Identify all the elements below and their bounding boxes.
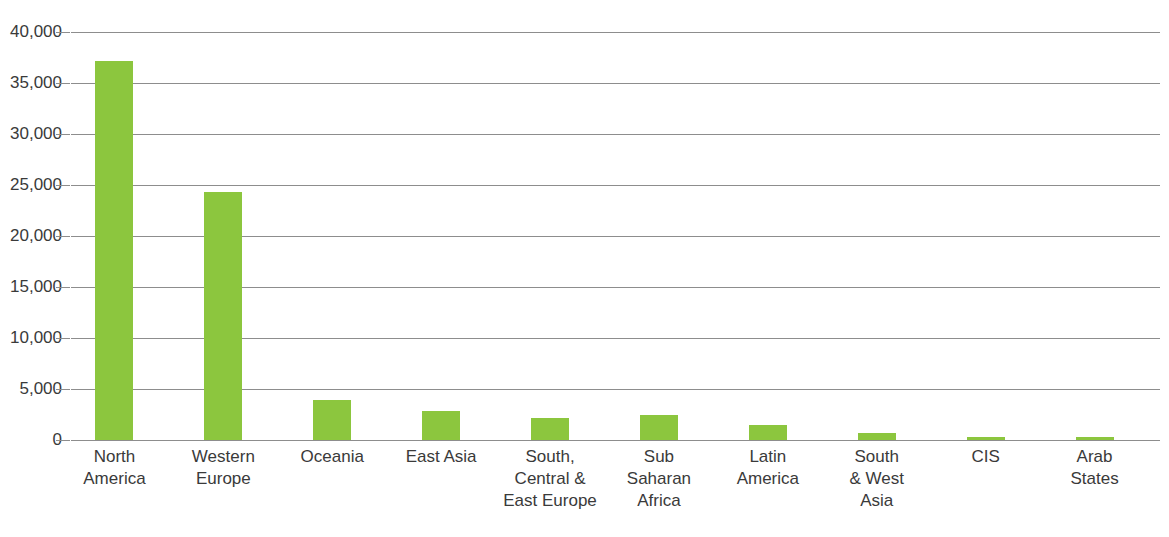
y-axis-tick (56, 83, 70, 84)
x-axis-tick-label-line: Western (171, 446, 275, 468)
x-axis-tick-label: Oceania (280, 446, 384, 468)
y-axis-tick-label: 30,000 (0, 125, 62, 142)
x-axis-tick-label: LatinAmerica (716, 446, 820, 490)
y-axis-tick-label: 25,000 (0, 176, 62, 193)
y-axis-tick (56, 134, 70, 135)
x-axis-tick-label-line: Latin (716, 446, 820, 468)
bar[interactable] (967, 437, 1005, 440)
bar[interactable] (422, 411, 460, 440)
y-axis-tick (56, 338, 70, 339)
y-axis-tick (56, 287, 70, 288)
x-axis-tick-label-line: States (1043, 468, 1147, 490)
y-axis-tick-label: 15,000 (0, 278, 62, 295)
y-axis-tick-label: 0 (0, 431, 62, 448)
x-axis-tick-label-line: South, (498, 446, 602, 468)
y-axis-tick (56, 32, 70, 33)
bar[interactable] (749, 425, 787, 440)
y-axis-tick-label: 20,000 (0, 227, 62, 244)
bar[interactable] (640, 415, 678, 441)
x-axis-tick-label-line: America (716, 468, 820, 490)
x-axis-tick-label-line: South (825, 446, 929, 468)
x-axis-tick-label-line: Europe (171, 468, 275, 490)
x-axis-tick-label: CIS (934, 446, 1038, 468)
x-axis-tick-label-line: Arab (1043, 446, 1147, 468)
x-axis-tick-label-line: Sub (607, 446, 711, 468)
x-axis-tick-label-line: CIS (934, 446, 1038, 468)
gridline (71, 32, 1160, 33)
bar[interactable] (313, 400, 351, 440)
x-axis-tick-label: SubSaharanAfrica (607, 446, 711, 512)
chart-title (120, 0, 820, 2)
x-axis-tick-label-line: Saharan (607, 468, 711, 490)
y-axis-tick (56, 440, 70, 441)
x-axis-tick-label: NorthAmerica (62, 446, 166, 490)
bar[interactable] (204, 192, 242, 440)
x-axis-tick-label-line: East Asia (389, 446, 493, 468)
gridline (71, 134, 1160, 135)
x-axis-tick-label: South& WestAsia (825, 446, 929, 512)
x-axis-tick-label: ArabStates (1043, 446, 1147, 490)
x-axis-tick-label-line: Africa (607, 490, 711, 512)
gridline (71, 440, 1160, 441)
x-axis-tick-label: WesternEurope (171, 446, 275, 490)
x-axis-tick-label-line: Asia (825, 490, 929, 512)
y-axis-tick-label: 10,000 (0, 329, 62, 346)
x-axis-tick-label-line: & West (825, 468, 929, 490)
y-axis-tick-labels: 40,00035,00030,00025,00020,00015,00010,0… (0, 32, 62, 440)
x-axis-tick-label-line: Central & (498, 468, 602, 490)
bar[interactable] (95, 61, 133, 440)
gridline (71, 185, 1160, 186)
bar[interactable] (531, 418, 569, 440)
x-axis-tick-label-line: Oceania (280, 446, 384, 468)
bar-chart: 40,00035,00030,00025,00020,00015,00010,0… (0, 0, 1169, 537)
x-axis-tick-label: South,Central &East Europe (498, 446, 602, 512)
x-axis-tick-label: East Asia (389, 446, 493, 468)
y-axis-tick-label: 5,000 (0, 380, 62, 397)
gridline (71, 83, 1160, 84)
bar[interactable] (858, 433, 896, 440)
y-axis-tick (56, 389, 70, 390)
plot-area (71, 32, 1160, 440)
x-axis-tick-label-line: North (62, 446, 166, 468)
x-axis-tick-labels: NorthAmericaWesternEuropeOceaniaEast Asi… (71, 446, 1160, 530)
x-axis-tick-label-line: East Europe (498, 490, 602, 512)
y-axis-tick (56, 185, 70, 186)
y-axis-tick (56, 236, 70, 237)
y-axis-tick-label: 40,000 (0, 23, 62, 40)
x-axis-tick-label-line: America (62, 468, 166, 490)
bar[interactable] (1076, 437, 1114, 440)
y-axis-tick-label: 35,000 (0, 74, 62, 91)
